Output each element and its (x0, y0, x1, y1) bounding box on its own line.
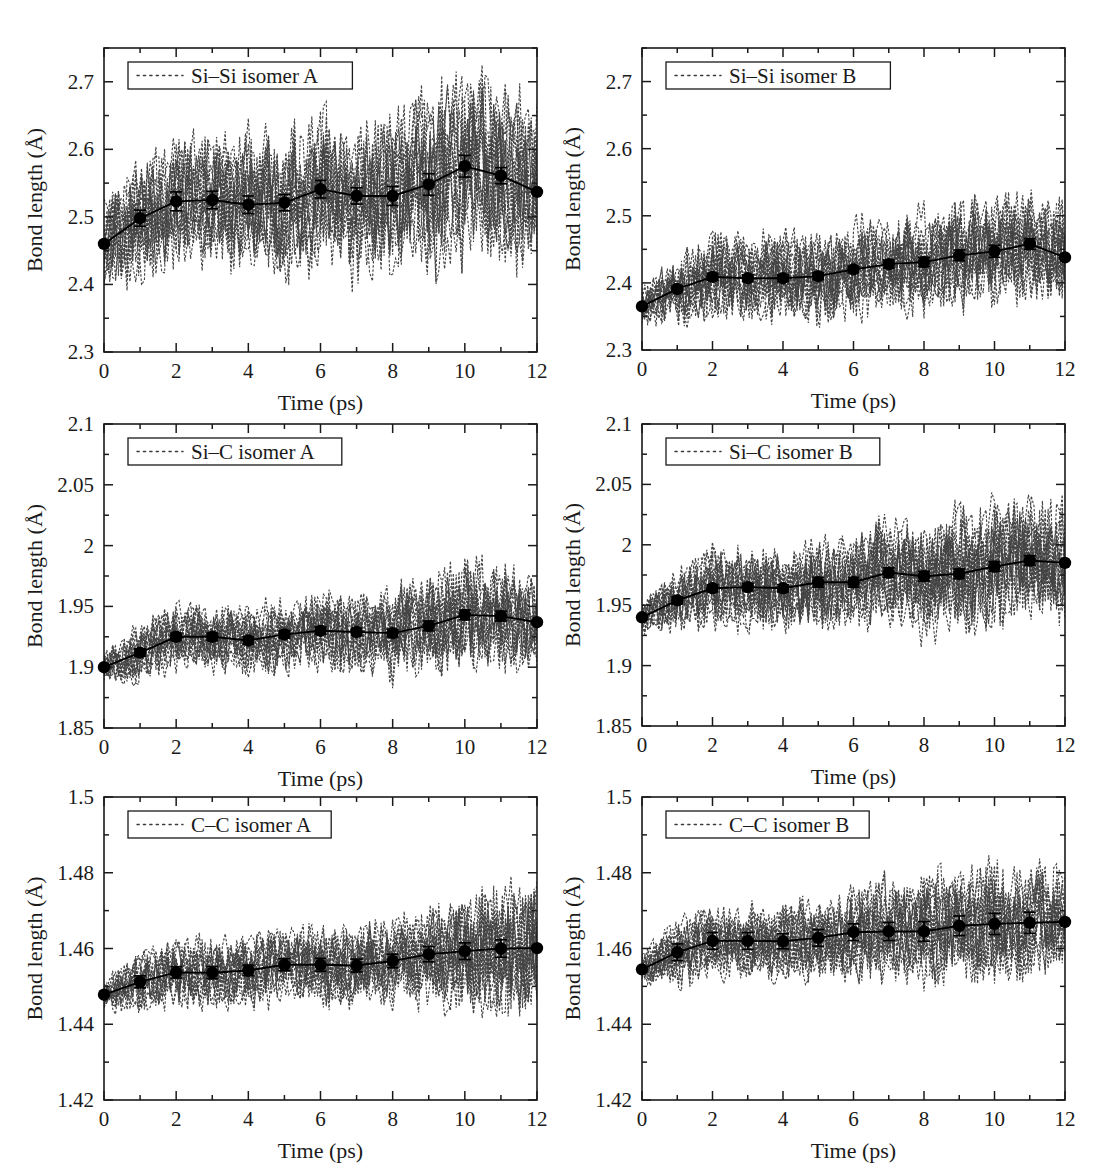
legend: Si–C isomer A (128, 438, 342, 465)
data-point-marker (350, 959, 362, 971)
x-tick-label: 6 (315, 735, 326, 759)
data-point-marker (1024, 917, 1036, 929)
plot-si-si-isomer-a: 0246810122.32.42.52.62.7Time (ps)Bond le… (18, 34, 549, 422)
y-tick-label: 2.5 (606, 204, 632, 228)
data-point-marker (495, 610, 507, 622)
data-point-marker (423, 620, 435, 632)
x-tick-label: 12 (1055, 733, 1076, 757)
data-point-marker (170, 966, 182, 978)
data-point-marker (812, 576, 824, 588)
y-tick-label: 2 (622, 533, 633, 557)
data-point-marker (1024, 554, 1036, 566)
data-point-marker (314, 959, 326, 971)
x-tick-label: 6 (848, 1107, 859, 1131)
data-point-marker (953, 249, 965, 261)
y-tick-label: 2.6 (606, 137, 632, 161)
y-tick-label: 1.48 (57, 861, 94, 885)
y-axis-title: Bond length (Å) (22, 876, 47, 1020)
panel-si-si-isomer-b: 0246810122.32.42.52.62.7Time (ps)Bond le… (556, 34, 1077, 420)
data-point-marker (495, 942, 507, 954)
axis-ticks (104, 424, 537, 728)
data-point-marker (742, 935, 754, 947)
y-tick-label: 1.42 (57, 1088, 94, 1112)
legend-label: Si–C isomer B (729, 440, 853, 464)
plot-c-c-isomer-a: 0246810121.421.441.461.481.5Time (ps)Bon… (18, 783, 549, 1169)
y-tick-label: 2.4 (606, 271, 633, 295)
data-point-marker (636, 963, 648, 975)
raw-trajectory-traces (642, 492, 1065, 647)
x-tick-label: 0 (99, 1107, 110, 1131)
y-tick-label: 2.7 (606, 70, 632, 94)
y-tick-label: 2.05 (57, 473, 94, 497)
data-point-marker (953, 920, 965, 932)
legend-label: Si–Si isomer A (191, 64, 319, 88)
data-point-marker (423, 948, 435, 960)
data-point-marker (671, 594, 683, 606)
x-tick-label: 0 (637, 357, 648, 381)
data-point-marker (350, 190, 362, 202)
data-point-marker (1059, 916, 1071, 928)
legend-label: Si–Si isomer B (729, 64, 856, 88)
x-tick-label: 2 (707, 1107, 718, 1131)
data-point-marker (918, 570, 930, 582)
y-tick-label: 2.05 (595, 472, 632, 496)
data-point-marker (988, 245, 1000, 257)
panel-si-c-isomer-a: 0246810121.851.91.9522.052.1Time (ps)Bon… (18, 410, 549, 798)
panel-c-c-isomer-a: 0246810121.421.441.461.481.5Time (ps)Bon… (18, 783, 549, 1169)
data-point-marker (918, 256, 930, 268)
x-tick-label: 10 (454, 735, 475, 759)
x-tick-label: 10 (454, 359, 475, 383)
x-tick-label: 0 (637, 1107, 648, 1131)
x-tick-label: 2 (707, 357, 718, 381)
x-tick-label: 12 (1055, 357, 1076, 381)
data-point-marker (742, 581, 754, 593)
y-tick-label: 1.44 (595, 1012, 632, 1036)
data-point-marker (170, 631, 182, 643)
data-point-marker (206, 631, 218, 643)
x-tick-label: 12 (527, 359, 548, 383)
x-tick-label: 2 (171, 735, 182, 759)
data-point-marker (242, 634, 254, 646)
data-point-marker (847, 576, 859, 588)
plot-si-c-isomer-b: 0246810121.851.91.9522.052.1Time (ps)Bon… (556, 410, 1077, 796)
data-point-marker (1024, 238, 1036, 250)
x-tick-label: 4 (243, 1107, 254, 1131)
legend-label: C–C isomer A (191, 813, 312, 837)
x-tick-label: 4 (778, 1107, 789, 1131)
plot-c-c-isomer-b: 0246810121.421.441.461.481.5Time (ps)Bon… (556, 783, 1077, 1169)
x-tick-label: 10 (984, 733, 1005, 757)
data-point-marker (278, 628, 290, 640)
x-tick-label: 6 (315, 359, 326, 383)
y-tick-label: 2.1 (68, 412, 94, 436)
x-tick-label: 8 (919, 1107, 930, 1131)
raw-trajectory-traces (642, 190, 1065, 329)
plot-si-si-isomer-b: 0246810122.32.42.52.62.7Time (ps)Bond le… (556, 34, 1077, 420)
data-point-marker (459, 160, 471, 172)
x-tick-label: 8 (919, 357, 930, 381)
data-point-marker (812, 270, 824, 282)
data-point-marker (706, 935, 718, 947)
x-tick-label: 2 (171, 1107, 182, 1131)
data-point-marker (671, 283, 683, 295)
data-point-marker (134, 646, 146, 658)
x-tick-label: 4 (778, 357, 789, 381)
y-tick-label: 2.7 (68, 70, 94, 94)
y-tick-label: 1.95 (595, 593, 632, 617)
data-point-marker (706, 582, 718, 594)
data-point-marker (386, 190, 398, 202)
x-tick-label: 6 (315, 1107, 326, 1131)
y-tick-label: 1.46 (595, 937, 632, 961)
data-point-marker (777, 272, 789, 284)
x-tick-label: 10 (984, 1107, 1005, 1131)
x-axis-title: Time (ps) (811, 1138, 896, 1163)
legend: Si–Si isomer B (666, 62, 890, 89)
data-point-marker (847, 263, 859, 275)
y-tick-label: 2 (84, 534, 95, 558)
x-tick-label: 8 (387, 359, 398, 383)
data-point-marker (777, 582, 789, 594)
data-point-marker (170, 195, 182, 207)
data-point-marker (742, 272, 754, 284)
data-point-marker (988, 560, 1000, 572)
x-tick-label: 2 (707, 733, 718, 757)
data-point-marker (423, 178, 435, 190)
